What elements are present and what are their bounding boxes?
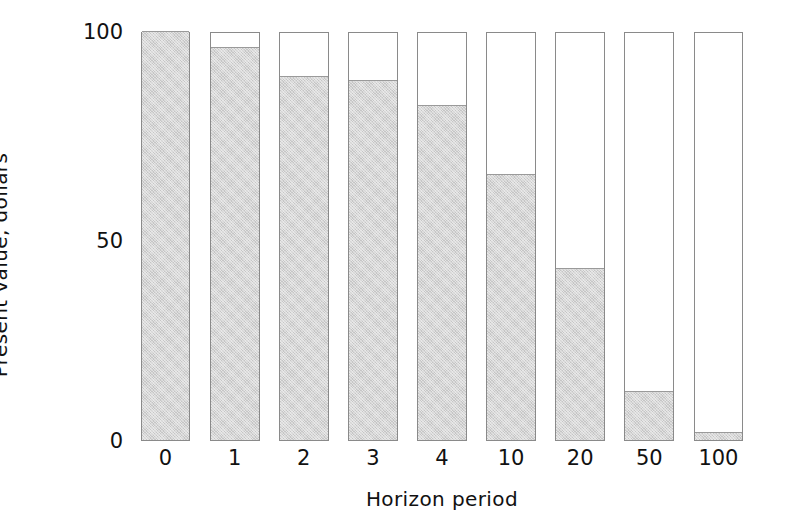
bar-0 (141, 32, 191, 441)
bar-outline-20 (555, 32, 605, 441)
bar-outline-3 (348, 32, 398, 441)
bar-50 (624, 32, 674, 441)
y-tick-label-0: 0 (110, 431, 123, 452)
y-tick-label-100: 100 (83, 22, 123, 43)
bar-2 (279, 32, 329, 441)
bar-outline-2 (279, 32, 329, 441)
bar-outline-10 (486, 32, 536, 441)
bar-3 (348, 32, 398, 441)
bar-fill-3 (349, 80, 397, 440)
bar-outline-1 (210, 32, 260, 441)
x-tick-label-1: 1 (228, 448, 241, 469)
bar-20 (555, 32, 605, 441)
plot-area (131, 32, 753, 441)
bar-fill-100 (695, 432, 743, 440)
x-tick-label-3: 3 (366, 448, 379, 469)
x-tick-label-2: 2 (297, 448, 310, 469)
x-tick-label-50: 50 (636, 448, 663, 469)
bar-10 (486, 32, 536, 441)
bar-outline-50 (624, 32, 674, 441)
x-tick-label-4: 4 (435, 448, 448, 469)
bar-chart-figure: Present value, dollars 100 50 0 01234102… (0, 0, 791, 530)
bar-fill-10 (487, 174, 535, 440)
x-tick-label-100: 100 (698, 448, 738, 469)
bar-fill-50 (625, 391, 673, 440)
bar-1 (210, 32, 260, 441)
x-tick-label-0: 0 (159, 448, 172, 469)
bar-4 (417, 32, 467, 441)
x-tick-label-10: 10 (498, 448, 525, 469)
bar-outline-0 (141, 32, 191, 441)
bar-fill-0 (142, 31, 190, 440)
bar-fill-4 (418, 105, 466, 440)
bar-100 (694, 32, 744, 441)
bar-fill-2 (280, 76, 328, 440)
x-axis-tick-labels: 01234102050100 (131, 448, 753, 478)
bar-outline-100 (694, 32, 744, 441)
bar-fill-20 (556, 268, 604, 440)
bar-outline-4 (417, 32, 467, 441)
y-tick-label-50: 50 (96, 231, 123, 252)
y-axis-tick-labels: 100 50 0 (55, 0, 123, 530)
x-axis-title: Horizon period (131, 487, 753, 511)
bar-fill-1 (211, 47, 259, 440)
x-tick-label-20: 20 (567, 448, 594, 469)
